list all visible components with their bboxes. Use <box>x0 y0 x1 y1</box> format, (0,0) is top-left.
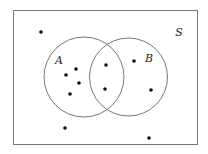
point-outside <box>39 30 43 34</box>
set-b-circle <box>90 38 168 116</box>
point-outside <box>63 126 67 130</box>
point-b-only <box>149 88 153 92</box>
set-a-label: A <box>54 54 63 67</box>
point-a-and-b <box>104 63 108 67</box>
point-outside <box>147 136 151 140</box>
point-a-only <box>74 67 78 71</box>
venn-diagram: S A B <box>0 0 208 154</box>
set-a-circle <box>44 37 124 117</box>
point-a-only <box>77 81 81 85</box>
point-a-only <box>68 92 72 96</box>
point-b-only <box>132 59 136 63</box>
point-a-and-b <box>103 87 107 91</box>
universe-label: S <box>175 26 183 39</box>
set-b-label: B <box>144 52 153 65</box>
points-group <box>39 30 153 140</box>
point-a-only <box>64 73 68 77</box>
